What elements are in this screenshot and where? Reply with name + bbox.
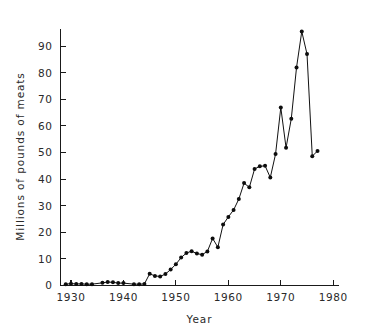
data-point-marker — [300, 29, 304, 33]
data-point-marker — [137, 282, 141, 286]
data-point-marker — [163, 272, 167, 276]
data-point-marker — [242, 181, 246, 185]
data-point-marker — [221, 223, 225, 227]
y-tick-label: 70 — [38, 93, 53, 105]
y-tick-label: 50 — [38, 146, 53, 158]
data-point-marker — [284, 146, 288, 150]
data-series-line — [66, 31, 318, 284]
data-point-marker — [226, 215, 230, 219]
data-point-marker — [263, 164, 267, 168]
x-tick-label: 1960 — [214, 291, 243, 303]
y-tick-label: 30 — [38, 200, 53, 212]
data-point-marker — [258, 164, 262, 168]
data-point-marker — [310, 154, 314, 158]
x-tick-label: 1930 — [56, 291, 85, 303]
x-tick-label: 1950 — [161, 291, 190, 303]
data-point-marker — [179, 256, 183, 260]
y-tick-label: 60 — [38, 120, 53, 132]
line-chart-plot: 0102030405060708090193019401950196019701… — [0, 0, 366, 326]
data-point-marker — [305, 52, 309, 56]
data-point-marker — [289, 117, 293, 121]
data-point-marker — [200, 253, 204, 257]
chart-figure: 0102030405060708090193019401950196019701… — [0, 0, 366, 326]
data-point-marker — [132, 282, 136, 286]
data-point-marker — [216, 245, 220, 249]
x-tick-label: 1980 — [319, 291, 348, 303]
x-tick-label: 1940 — [109, 291, 138, 303]
data-point-marker — [195, 252, 199, 256]
data-point-marker — [142, 282, 146, 286]
y-tick-label: 10 — [38, 253, 53, 265]
data-point-marker — [316, 149, 320, 153]
y-tick-label: 40 — [38, 173, 53, 185]
data-point-marker — [69, 282, 73, 286]
data-point-marker — [148, 272, 152, 276]
data-point-marker — [190, 249, 194, 253]
data-point-marker — [111, 280, 115, 284]
data-point-marker — [100, 281, 104, 285]
y-axis-title-text: Millions of pounds of meats — [14, 72, 26, 240]
data-point-marker — [274, 152, 278, 156]
data-point-marker — [205, 249, 209, 253]
data-point-marker — [64, 282, 68, 286]
data-point-marker — [174, 262, 178, 266]
data-point-marker — [116, 281, 120, 285]
data-point-marker — [184, 251, 188, 255]
x-tick-label: 1970 — [266, 291, 295, 303]
data-point-marker — [121, 281, 125, 285]
data-point-marker — [74, 282, 78, 286]
data-point-marker — [169, 268, 173, 272]
x-axis-title-text: Year — [186, 313, 213, 325]
data-point-marker — [247, 185, 251, 189]
y-tick-label: 20 — [38, 226, 53, 238]
data-point-marker — [279, 106, 283, 110]
data-point-marker — [158, 274, 162, 278]
y-tick-label: 90 — [38, 40, 53, 52]
y-tick-label: 80 — [38, 67, 53, 79]
data-point-marker — [153, 274, 157, 278]
data-point-marker — [268, 176, 272, 180]
data-point-marker — [295, 65, 299, 69]
data-point-marker — [90, 282, 94, 286]
data-point-marker — [232, 208, 236, 212]
data-point-marker — [211, 236, 215, 240]
data-point-marker — [253, 167, 257, 171]
data-point-marker — [85, 282, 89, 286]
data-point-marker — [237, 197, 241, 201]
data-point-marker — [79, 282, 83, 286]
y-tick-label: 0 — [45, 279, 52, 291]
data-point-marker — [106, 280, 110, 284]
